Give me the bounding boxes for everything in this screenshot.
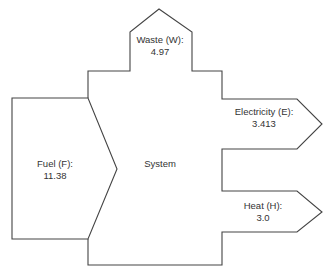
heat-label: Heat (H): <box>244 200 283 212</box>
fuel-value: 11.38 <box>37 170 73 182</box>
waste-label-block: Waste (W): 4.97 <box>136 34 183 58</box>
system-label-block: System <box>144 158 176 170</box>
fuel-label-block: Fuel (F): 11.38 <box>37 158 73 182</box>
system-label: System <box>144 158 176 170</box>
electricity-label-block: Electricity (E): 3.413 <box>235 106 294 130</box>
heat-label-block: Heat (H): 3.0 <box>244 200 283 224</box>
heat-value: 3.0 <box>244 212 283 224</box>
system-outline <box>88 9 322 265</box>
waste-value: 4.97 <box>136 46 183 58</box>
waste-label: Waste (W): <box>136 34 183 46</box>
electricity-value: 3.413 <box>235 118 294 130</box>
fuel-label: Fuel (F): <box>37 158 73 170</box>
electricity-label: Electricity (E): <box>235 106 294 118</box>
